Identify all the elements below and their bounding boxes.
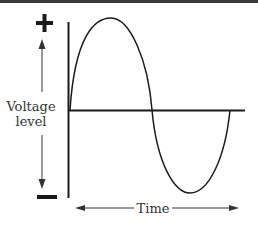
plus-icon	[36, 14, 53, 32]
y-axis-label-line1: Voltage	[5, 99, 55, 114]
minus-icon	[37, 195, 57, 199]
x-axis-label: Time	[137, 201, 170, 216]
arrow-down-icon	[39, 135, 46, 189]
y-axis-label-line2: level	[15, 114, 46, 129]
arrow-up-icon	[39, 39, 46, 92]
sine-curve	[70, 18, 230, 193]
sine-wave-diagram: Voltage level Time	[0, 0, 258, 226]
